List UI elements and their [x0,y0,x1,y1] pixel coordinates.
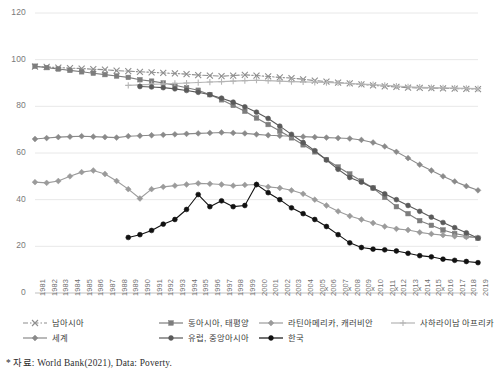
source-note: * 자료: World Bank(2021), Data: Poverty. [6,355,172,369]
x-axis-tick-label: 2011 [388,280,397,296]
legend-marker-icon [158,318,184,328]
chart-legend: 남아시아동아시아, 태평양라틴아메리카, 캐러비안사하라이남 아프리카세계유럽,… [0,318,496,352]
x-axis-tick-label: 1986 [96,279,105,296]
legend-item[interactable]: 한국 [258,333,304,343]
x-axis-tick-label: 2017 [458,279,467,296]
gridlines [35,13,478,246]
legend-label: 유럽, 중앙아시아 [188,333,249,343]
series-2 [32,168,481,241]
x-axis-tick-label: 2001 [271,279,280,296]
x-axis-tick-label: 1982 [50,279,59,296]
legend-marker-icon [22,318,48,328]
y-axis-tick-label: 100 [0,54,26,64]
x-axis-tick-label: 2013 [411,279,420,296]
legend-marker-icon [158,333,184,343]
x-axis-tick-label: 2016 [446,279,455,296]
legend-item[interactable]: 유럽, 중앙아시아 [158,333,249,343]
x-axis-tick-label: 2015 [434,279,443,296]
y-axis-tick-label: 80 [0,100,26,110]
legend-label: 동아시아, 태평양 [188,318,249,328]
x-axis-tick-label: 2006 [329,279,338,296]
x-axis-tick-label: 1989 [131,279,140,296]
series-1 [33,64,481,241]
x-axis-tick-label: 2002 [283,279,292,296]
x-axis-tick-label: 1995 [201,279,210,296]
x-axis-tick-label: 1992 [166,279,175,296]
plot-area: xxxxxx 020406080100120198119821983198419… [0,0,496,300]
x-axis-tick-label: 1997 [225,279,234,296]
x-axis-tick-label: 2005 [318,279,327,296]
legend-label: 한국 [288,333,304,343]
x-axis-tick-label: 1996 [213,279,222,296]
chart-figure: xxxxxx 020406080100120198119821983198419… [0,0,496,373]
legend-label: 라틴아메리카, 캐러비안 [288,318,373,328]
x-axis-tick-label: 1984 [73,279,82,296]
x-axis-tick-label: 1981 [38,279,47,296]
plot-svg: xxxxxx [0,0,496,300]
x-axis-tick-label: 1990 [143,279,152,296]
x-axis-tick-label: 1994 [190,279,199,296]
x-axis-tick-label: 2019 [481,279,490,296]
x-axis-tick-label: 1987 [108,279,117,296]
x-axis-tick-label: 1988 [120,279,129,296]
legend-item[interactable]: 라틴아메리카, 캐러비안 [258,318,373,328]
y-axis-tick-label: 0 [0,287,26,297]
x-axis-tick-label: 1993 [178,279,187,296]
y-axis-tick-label: 40 [0,194,26,204]
y-axis-tick-label: 60 [0,147,26,157]
x-axis-tick-label: 1998 [236,279,245,296]
legend-marker-icon [258,318,284,328]
legend-item[interactable]: 남아시아 [22,318,84,328]
legend-label: 남아시아 [52,318,84,328]
x-axis-tick-label: 1985 [85,279,94,296]
x-axis-tick-label: 1983 [61,279,70,296]
legend-item[interactable]: 세계 [22,333,68,343]
x-axis-tick-label: 1999 [248,279,257,296]
legend-marker-icon [258,333,284,343]
y-axis-tick-label: 20 [0,240,26,250]
legend-label: 사하라이남 아프리카 [420,318,494,328]
x-axis-tick-label: 2010 [376,279,385,296]
legend-marker-icon [390,318,416,328]
x-axis-tick-label: 2007 [341,279,350,296]
legend-item[interactable]: 사하라이남 아프리카 [390,318,494,328]
x-axis-tick-label: 2009 [364,279,373,296]
x-axis-tick-label: 2004 [306,279,315,296]
legend-marker-icon [22,333,48,343]
x-axis-tick-label: 1991 [155,279,164,296]
x-axis-tick-label: 2012 [399,279,408,296]
legend-item[interactable]: 동아시아, 태평양 [158,318,249,328]
x-axis-tick-label: 2003 [294,279,303,296]
legend-label: 세계 [52,333,68,343]
x-axis-tick-label: 2014 [423,279,432,296]
x-axis-tick-label: 2008 [353,279,362,296]
y-axis-tick-label: 120 [0,7,26,17]
x-axis-tick-label: 2000 [260,279,269,296]
x-axis-tick-label: 2018 [469,279,478,296]
